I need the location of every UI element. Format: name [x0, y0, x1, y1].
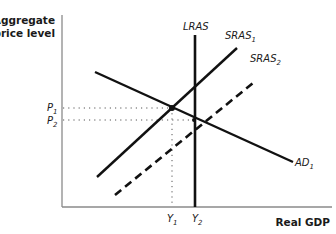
ad1-label: AD1: [294, 157, 314, 171]
sras1-label: SRAS1: [225, 30, 256, 44]
y1-label: Y1: [167, 213, 178, 227]
p1-label: P1: [47, 102, 58, 116]
x-axis-label: Real GDP: [275, 216, 330, 228]
equilibrium-point-e1: [169, 105, 175, 111]
y-axis-label-line1: Aggregate: [0, 14, 55, 26]
sras2-curve: [115, 83, 253, 195]
p2-label: P2: [47, 115, 58, 129]
equilibrium-point-e2: [192, 118, 196, 122]
sras2-label: SRAS2: [250, 53, 281, 67]
y2-label: Y2: [192, 213, 203, 227]
lras-label: LRAS: [183, 21, 209, 32]
ad-as-diagram: Aggregate price level Real GDP LRAS SRAS…: [0, 0, 336, 234]
y-axis-label-line2: price level: [0, 27, 55, 39]
